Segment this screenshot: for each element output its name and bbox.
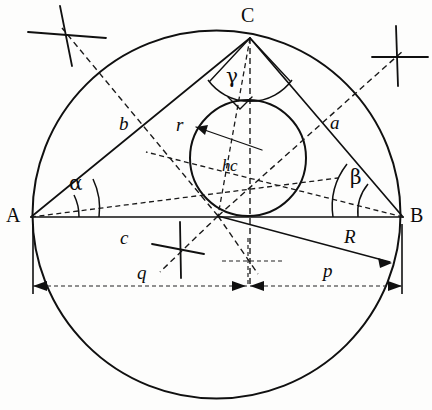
construction-ray-lower-left <box>160 216 218 272</box>
construction-cross-upper-right <box>372 26 428 86</box>
segment-label-q: q <box>137 263 147 282</box>
circumradius-R-arrowhead <box>378 258 392 268</box>
radius-label-r: r <box>176 115 183 134</box>
gamma-wedge-right-edge <box>250 38 290 81</box>
altitude-label-hc: hc <box>222 157 237 174</box>
segment-label-p: p <box>323 261 333 280</box>
angle-bisector-from-b <box>146 152 403 217</box>
angle-arc-alpha-outer <box>93 179 100 217</box>
circumradius-label-R: R <box>344 227 356 246</box>
construction-ray-upper-left <box>62 28 218 216</box>
vertex-label-c: C <box>241 5 254 25</box>
construction-cross-lower-center <box>222 238 282 284</box>
vertex-label-a: A <box>6 205 20 225</box>
angle-arc-alpha-inner <box>74 195 79 217</box>
angle-label-alpha: α <box>69 173 83 193</box>
construction-cross-lower-left <box>152 222 204 278</box>
geometry-figure: A B C b a c α β γ r hc R q p <box>0 0 432 410</box>
vertex-label-b: B <box>410 205 423 225</box>
incircle <box>190 100 306 216</box>
circumradius-R-line <box>218 216 390 262</box>
angle-arc-beta-outer <box>332 164 347 217</box>
angle-label-beta: β <box>350 167 362 187</box>
angle-label-gamma: γ <box>226 66 238 86</box>
side-label-a: a <box>330 113 340 132</box>
construction-ray-upper-right <box>218 50 404 216</box>
construction-cross-upper-left <box>28 6 106 66</box>
side-label-c: c <box>120 228 128 247</box>
dimension-arrow-p-left <box>250 281 264 291</box>
triangle-side-b <box>31 38 250 217</box>
dimension-arrow-q-right <box>232 281 246 291</box>
triangle-side-a <box>250 38 403 217</box>
side-label-b: b <box>119 114 129 133</box>
diagram-canvas <box>0 0 432 410</box>
dimension-arrow-p-right <box>388 281 402 291</box>
dimension-arrow-q-left <box>33 281 47 291</box>
